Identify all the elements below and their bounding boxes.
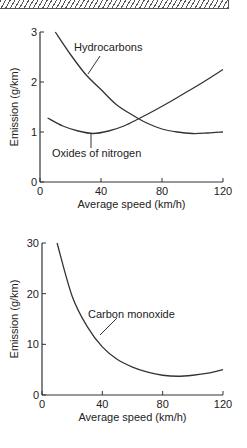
series-oxides-of-nitrogen-line <box>48 70 223 134</box>
x-tick-label: 0 <box>37 185 43 197</box>
x-tick-label: 0 <box>39 398 45 410</box>
y-tick-label: 30 <box>27 237 39 249</box>
series-annotation: Carbon monoxide <box>88 308 175 320</box>
x-tick-label: 40 <box>95 185 107 197</box>
x-tick-label: 80 <box>156 185 168 197</box>
y-tick-label: 1 <box>31 126 37 138</box>
x-tick-label: 40 <box>96 398 108 410</box>
series-annotation: Hydrocarbons <box>74 41 143 53</box>
y-axis-label: Emission (g/km) <box>8 280 20 359</box>
x-tick-label: 120 <box>214 185 232 197</box>
series-annotation: Oxides of nitrogen <box>52 147 141 159</box>
x-axis-label: Average speed (km/h) <box>77 198 185 210</box>
y-tick-label: 3 <box>31 26 37 38</box>
x-axis-label: Average speed (km/h) <box>78 411 186 423</box>
y-axis-label: Emission (g/km) <box>8 68 20 147</box>
x-tick-label: 120 <box>214 398 232 410</box>
emission-charts: 012304080120Average speed (km/h)Emission… <box>0 0 247 448</box>
x-tick-label: 80 <box>157 398 169 410</box>
y-tick-label: 20 <box>27 288 39 300</box>
chart-1: 012304080120Average speed (km/h)Emission… <box>8 26 232 210</box>
y-tick-label: 2 <box>31 76 37 88</box>
y-tick-label: 10 <box>27 338 39 350</box>
chart-2: 010203004080120Average speed (km/h)Emiss… <box>8 237 232 423</box>
